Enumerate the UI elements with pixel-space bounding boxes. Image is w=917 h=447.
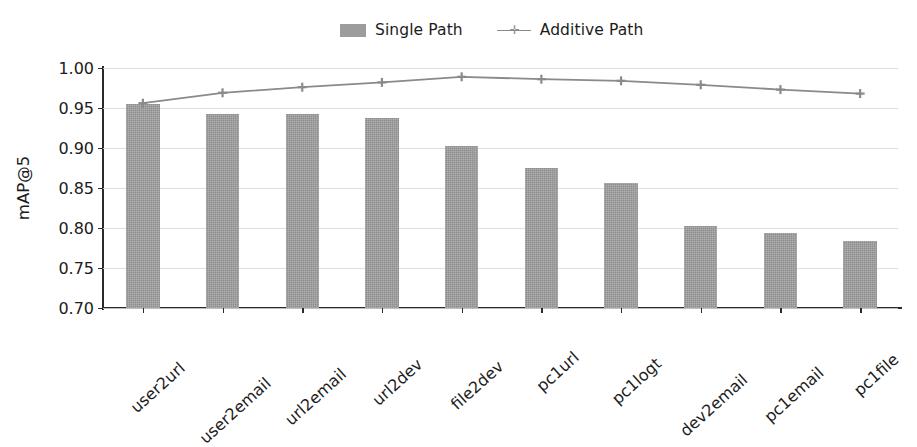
x-tick-mark: [701, 308, 702, 313]
bar: [525, 168, 558, 308]
x-tick-label: user2url: [176, 314, 238, 372]
bar: [365, 118, 398, 308]
plot-area: 0.700.750.800.850.900.951.00: [103, 68, 900, 308]
plus-marker-icon: [856, 89, 865, 98]
plus-marker-icon: [218, 88, 227, 97]
legend-label-single-path: Single Path: [375, 21, 463, 39]
x-tick-label-text: url2dev: [368, 355, 426, 410]
x-tick-label-text: user2email: [195, 374, 274, 447]
y-axis-label: mAP@5: [14, 156, 33, 220]
y-tick-mark: [98, 148, 103, 149]
bar: [684, 226, 717, 308]
plus-marker-icon: [696, 80, 705, 89]
bar: [604, 183, 637, 308]
x-tick-label: pc1url: [570, 314, 620, 362]
x-tick-mark: [223, 308, 224, 313]
y-tick-label: 0.85: [58, 179, 94, 198]
x-tick-label: pc1file: [890, 314, 917, 364]
x-tick-label: url2dev: [414, 314, 472, 369]
bar: [126, 104, 159, 308]
bar: [764, 233, 797, 308]
x-tick-mark: [780, 308, 781, 313]
plus-marker-icon: [298, 83, 307, 92]
plus-marker-icon: [776, 85, 785, 94]
legend-label-additive-path: Additive Path: [540, 21, 644, 39]
legend-bar-swatch-icon: [340, 24, 366, 37]
additive-path-line: [143, 77, 860, 103]
x-tick-mark: [541, 308, 542, 313]
legend-plus-marker-icon: ✛: [510, 26, 519, 35]
chart-legend: Single Path ✛ Additive Path: [334, 16, 649, 44]
y-tick-label: 0.70: [58, 299, 94, 318]
y-tick-label: 1.00: [58, 59, 94, 78]
plus-marker-icon: [537, 75, 546, 84]
bar: [286, 114, 319, 308]
x-tick-label: pc1logt: [652, 314, 709, 368]
y-tick-label: 0.95: [58, 99, 94, 118]
x-tick-label-text: pc1logt: [608, 354, 665, 408]
y-tick-mark: [98, 308, 103, 309]
legend-entry-additive-path: ✛ Additive Path: [497, 21, 644, 39]
x-tick-label-text: dev2email: [676, 370, 751, 440]
y-tick-label: 0.90: [58, 139, 94, 158]
x-tick-mark: [302, 308, 303, 313]
y-tick-mark: [98, 228, 103, 229]
x-tick-mark: [462, 308, 463, 313]
plus-marker-icon: [377, 78, 386, 87]
x-tick-label-text: file2dev: [447, 357, 507, 414]
legend-line-swatch-icon: ✛: [497, 24, 531, 37]
x-tick-mark: [621, 308, 622, 313]
x-tick-mark: [860, 308, 861, 313]
x-tick-label-text: pc1file: [850, 350, 902, 400]
x-tick-label-text: user2url: [127, 358, 189, 416]
plus-marker-icon: [457, 72, 466, 81]
x-tick-label-text: url2email: [282, 364, 351, 429]
x-tick-label: file2dev: [494, 314, 554, 371]
gridline: [103, 108, 898, 109]
x-tick-label-text: pc1url: [533, 348, 583, 396]
y-tick-label: 0.80: [58, 219, 94, 238]
y-tick-mark: [98, 108, 103, 109]
y-tick-mark: [98, 268, 103, 269]
x-tick-mark: [143, 308, 144, 313]
bar: [843, 241, 876, 308]
y-tick-label: 0.75: [58, 259, 94, 278]
plus-marker-icon: [617, 76, 626, 85]
gridline: [103, 68, 898, 69]
bar: [206, 114, 239, 308]
bar: [445, 146, 478, 308]
y-tick-mark: [98, 68, 103, 69]
x-tick-mark: [382, 308, 383, 313]
legend-entry-single-path: Single Path: [340, 21, 463, 39]
x-tick-label-text: pc1email: [761, 363, 828, 426]
y-tick-mark: [98, 188, 103, 189]
